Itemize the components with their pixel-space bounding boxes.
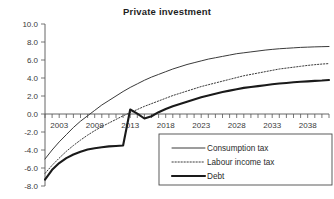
legend-label: Labour income tax [207,158,274,167]
y-tick-label: 6.0 [27,56,39,65]
legend-label: Debt [207,172,225,181]
y-tick-label: -6.0 [24,164,38,173]
x-tick-label: 2038 [299,121,317,130]
x-tick-label: 2023 [192,121,210,130]
chart-title: Private investment [123,6,212,17]
x-tick-label: 2018 [157,121,175,130]
x-axis-tick-labels: 20032008201320182023202820332038 [50,121,317,130]
y-tick-label: -8.0 [24,182,38,191]
y-tick-label: 2.0 [27,92,39,101]
y-tick-label: 0.0 [27,110,39,119]
x-tick-label: 2003 [50,121,68,130]
y-axis-ticks [41,24,45,186]
legend-label: Consumption tax [207,144,268,153]
y-tick-label: 4.0 [27,74,39,83]
y-tick-label: 10.0 [22,20,38,29]
y-tick-label: 8.0 [27,38,39,47]
x-tick-label: 2008 [86,121,104,130]
y-tick-label: -4.0 [24,146,38,155]
y-tick-label: -2.0 [24,128,38,137]
y-axis-tick-labels: 10.08.06.04.02.00.0-2.0-4.0-6.0-8.0 [22,20,38,191]
x-tick-label: 2028 [228,121,246,130]
legend: Consumption taxLabour income taxDebt [159,134,332,185]
private-investment-chart: Private investment 10.08.06.04.02.00.0-2… [0,0,334,199]
x-tick-label: 2033 [263,121,281,130]
x-tick-label: 2013 [121,121,139,130]
y-axis: 10.08.06.04.02.00.0-2.0-4.0-6.0-8.0 [22,20,45,191]
chart-canvas: Private investment 10.08.06.04.02.00.0-2… [0,0,334,199]
